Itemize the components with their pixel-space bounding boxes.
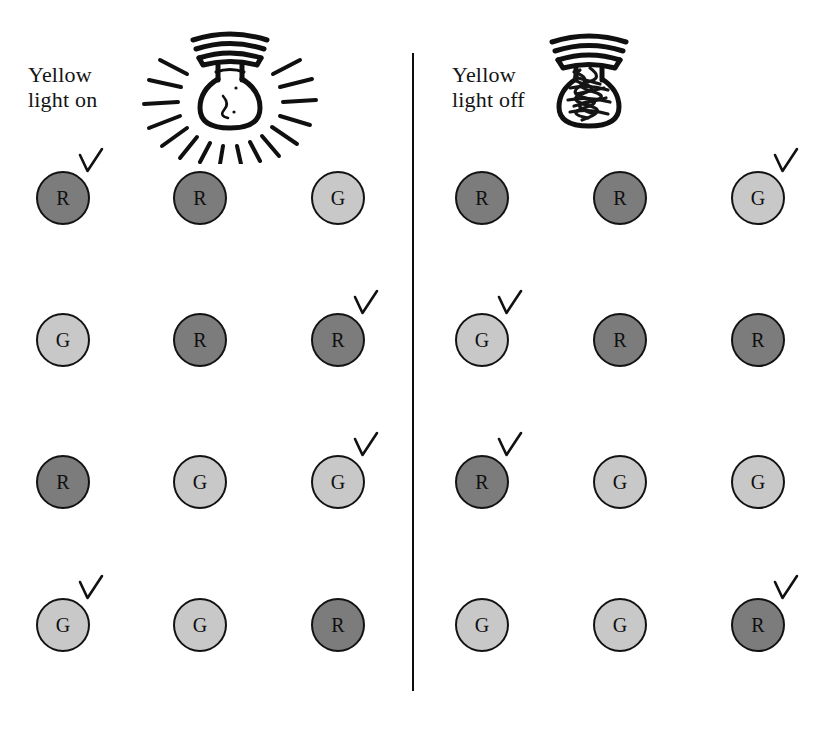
token-label: R — [613, 188, 626, 208]
token-label: R — [751, 615, 764, 635]
figure-root: Yellowlight on — [0, 0, 826, 729]
token-label: R — [56, 472, 69, 492]
token-label: R — [751, 330, 764, 350]
token-off-r2-c1[interactable]: G — [455, 313, 509, 367]
light-bulb-unlit-icon — [534, 28, 644, 133]
check-mark-icon — [495, 431, 525, 463]
token-label: G — [193, 615, 207, 635]
token-off-r1-c3[interactable]: G — [731, 171, 785, 225]
token-label: G — [613, 615, 627, 635]
check-mark-icon — [771, 574, 801, 606]
token-on-r1-c2[interactable]: R — [173, 171, 227, 225]
panel-divider — [412, 53, 414, 691]
check-mark-icon — [771, 147, 801, 179]
token-label: G — [613, 472, 627, 492]
token-label: G — [751, 472, 765, 492]
token-label: R — [56, 188, 69, 208]
token-off-r4-c3[interactable]: R — [731, 598, 785, 652]
token-label: G — [751, 188, 765, 208]
token-label: G — [475, 615, 489, 635]
check-mark-icon — [76, 574, 106, 606]
panel-on-label-line2: light on — [28, 87, 97, 112]
check-mark-icon — [351, 431, 381, 463]
token-label: R — [193, 188, 206, 208]
token-label: G — [56, 330, 70, 350]
token-label: G — [475, 330, 489, 350]
token-off-r3-c2[interactable]: G — [593, 455, 647, 509]
token-label: R — [331, 615, 344, 635]
token-label: G — [331, 188, 345, 208]
light-bulb-lit-icon — [140, 24, 320, 164]
panel-on-label: Yellowlight on — [28, 62, 97, 112]
token-on-r3-c1[interactable]: R — [36, 455, 90, 509]
panel-off-label: Yellowlight off — [452, 62, 525, 112]
token-off-r4-c2[interactable]: G — [593, 598, 647, 652]
token-off-r2-c2[interactable]: R — [593, 313, 647, 367]
token-label: R — [193, 330, 206, 350]
token-on-r2-c3[interactable]: R — [311, 313, 365, 367]
panel-off-label-line2: light off — [452, 87, 525, 112]
token-label: R — [475, 188, 488, 208]
token-on-r3-c2[interactable]: G — [173, 455, 227, 509]
token-on-r1-c1[interactable]: R — [36, 171, 90, 225]
token-label: G — [331, 472, 345, 492]
panel-on-label-line1: Yellow — [28, 62, 92, 87]
token-on-r4-c1[interactable]: G — [36, 598, 90, 652]
check-mark-icon — [495, 289, 525, 321]
token-label: G — [193, 472, 207, 492]
check-mark-icon — [351, 289, 381, 321]
token-off-r4-c1[interactable]: G — [455, 598, 509, 652]
token-on-r2-c1[interactable]: G — [36, 313, 90, 367]
panel-off-label-line1: Yellow — [452, 62, 516, 87]
token-on-r4-c2[interactable]: G — [173, 598, 227, 652]
token-label: R — [475, 472, 488, 492]
token-off-r3-c3[interactable]: G — [731, 455, 785, 509]
token-on-r4-c3[interactable]: R — [311, 598, 365, 652]
check-mark-icon — [76, 147, 106, 179]
token-off-r2-c3[interactable]: R — [731, 313, 785, 367]
token-off-r1-c1[interactable]: R — [455, 171, 509, 225]
token-on-r3-c3[interactable]: G — [311, 455, 365, 509]
token-label: R — [613, 330, 626, 350]
token-on-r1-c3[interactable]: G — [311, 171, 365, 225]
token-off-r1-c2[interactable]: R — [593, 171, 647, 225]
token-off-r3-c1[interactable]: R — [455, 455, 509, 509]
token-on-r2-c2[interactable]: R — [173, 313, 227, 367]
token-label: G — [56, 615, 70, 635]
token-label: R — [331, 330, 344, 350]
